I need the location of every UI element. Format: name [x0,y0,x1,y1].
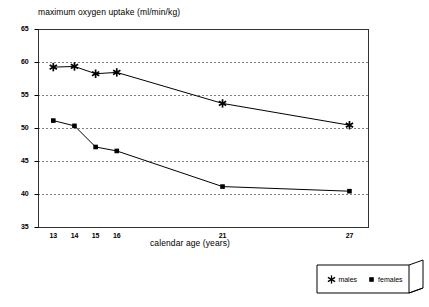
chart-figure: maximum oxygen uptake (ml/min/kg) 656055… [0,0,429,307]
legend-label-males: males [338,276,357,283]
y-tick-label: 40 [13,190,29,197]
series-line [53,121,349,192]
marker-square [51,118,56,123]
marker-square [72,124,77,129]
square-icon [367,275,376,284]
legend-box: males females [313,259,425,303]
y-tick-label: 65 [13,25,29,32]
marker-square [114,149,119,154]
y-tick-label: 50 [13,124,29,131]
legend-entry-males: males [327,275,357,284]
y-tick-label: 35 [13,223,29,230]
marker-square [347,189,352,194]
y-tick-label: 45 [13,157,29,164]
y-tick-label: 60 [13,58,29,65]
marker-square [220,184,225,189]
series-females [51,118,352,193]
data-series-layer [50,62,353,193]
x-axis-label: calendar age (years) [0,238,380,248]
legend-label-females: females [378,276,403,283]
marker-square [93,145,98,150]
gridlines [39,63,369,195]
legend-entry-females: females [367,275,403,284]
y-tick-label: 55 [13,91,29,98]
legend-entries: males females [323,270,407,288]
asterisk-icon [327,275,336,284]
y-tick-marks [35,30,39,228]
